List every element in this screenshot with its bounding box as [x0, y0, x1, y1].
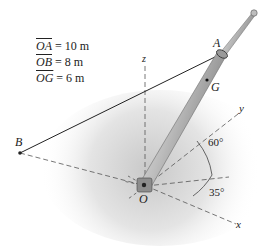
given-oa: OA = 10 m: [36, 38, 89, 54]
given-dimensions: OA = 10 m OB = 8 m OG = 6 m: [36, 38, 89, 86]
pole-tip: [220, 12, 256, 56]
label-y-axis: y: [239, 102, 244, 114]
label-a: A: [213, 36, 220, 51]
label-o: O: [139, 192, 148, 207]
angle-label-35: 35°: [209, 186, 224, 198]
given-ob: OB = 8 m: [36, 54, 89, 70]
point-b: [18, 151, 22, 155]
given-og: OG = 6 m: [36, 70, 89, 86]
label-x-axis: x: [236, 218, 241, 230]
label-b: B: [15, 135, 22, 150]
label-g: G: [211, 80, 220, 95]
point-g: [205, 78, 208, 81]
pole-top-ball: [251, 10, 257, 16]
pivot-pin: [142, 183, 146, 187]
angle-label-60: 60°: [208, 136, 223, 148]
label-z-axis: z: [142, 53, 146, 64]
